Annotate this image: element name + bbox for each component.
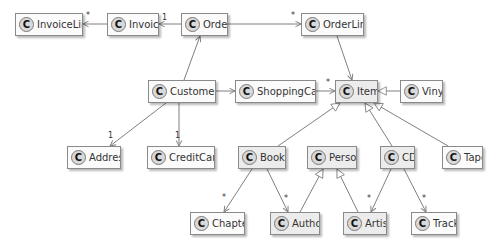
generalization-edge-author-person	[300, 169, 323, 212]
class-artist[interactable]: CArtist	[343, 212, 387, 235]
class-track[interactable]: CTrack	[411, 212, 457, 235]
generalization-edge-artist-person	[337, 169, 358, 212]
class-stereotype-icon: C	[111, 17, 126, 32]
association-edge-customer-address	[110, 103, 166, 146]
class-order[interactable]: COrder	[181, 13, 228, 36]
multiplicity-label: 1	[162, 13, 167, 22]
class-name: Book	[260, 153, 285, 163]
class-stereotype-icon: C	[152, 84, 167, 99]
association-edge-orderline-item	[337, 36, 352, 80]
class-orderline[interactable]: COrderLine	[301, 13, 364, 36]
class-book[interactable]: CBook	[238, 146, 286, 169]
class-name: CreditCard	[169, 153, 215, 163]
association-edge-cd-track	[404, 169, 426, 212]
class-name: Customer	[170, 87, 216, 97]
multiplicity-label: *	[367, 194, 371, 203]
class-name: Item	[357, 87, 378, 97]
class-stereotype-icon: C	[151, 150, 166, 165]
class-address[interactable]: CAddress	[67, 146, 121, 169]
class-name: Person	[329, 153, 357, 163]
class-name: Chapter	[212, 219, 245, 229]
class-stereotype-icon: C	[339, 84, 354, 99]
association-edge-cd-artist	[371, 169, 391, 212]
class-name: Invoice	[129, 20, 159, 30]
class-chapter[interactable]: CChapter	[190, 212, 245, 235]
class-cd[interactable]: CCD	[380, 146, 415, 169]
class-invoice[interactable]: CInvoice	[107, 13, 159, 36]
class-shoppingcart[interactable]: CShoppingCart	[235, 80, 316, 103]
class-stereotype-icon: C	[242, 150, 257, 165]
multiplicity-label: *	[86, 11, 90, 20]
generalization-edge-cd-item	[365, 103, 392, 146]
class-stereotype-icon: C	[415, 216, 430, 231]
association-edge-book-author	[267, 169, 288, 212]
class-stereotype-icon: C	[239, 84, 254, 99]
class-name: Artist	[365, 219, 387, 229]
class-name: OrderLine	[323, 20, 364, 30]
multiplicity-label: *	[422, 194, 426, 203]
generalization-edge-book-item	[278, 103, 340, 146]
class-tape[interactable]: CTape	[442, 146, 483, 169]
class-invoiceline[interactable]: CInvoiceLine	[15, 13, 83, 36]
class-stereotype-icon: C	[71, 150, 86, 165]
class-name: InvoiceLine	[37, 20, 83, 30]
class-stereotype-icon: C	[347, 216, 362, 231]
class-name: CD	[402, 153, 415, 163]
association-edge-customer-order	[184, 36, 200, 80]
class-name: Track	[433, 219, 457, 229]
class-stereotype-icon: C	[446, 150, 461, 165]
class-stereotype-icon: C	[404, 84, 419, 99]
class-stereotype-icon: C	[311, 150, 326, 165]
class-stereotype-icon: C	[185, 17, 200, 32]
class-author[interactable]: CAuthor	[270, 212, 320, 235]
generalization-edge-tape-item	[374, 103, 448, 146]
multiplicity-label: 1	[175, 131, 180, 140]
class-stereotype-icon: C	[19, 17, 34, 32]
multiplicity-label: *	[222, 193, 226, 202]
multiplicity-label: *	[284, 194, 288, 203]
class-name: Author	[292, 219, 320, 229]
class-stereotype-icon: C	[274, 216, 289, 231]
class-vinyl[interactable]: CVinyl	[400, 80, 443, 103]
class-name: Order	[203, 20, 228, 30]
multiplicity-label: 1	[108, 131, 113, 140]
class-name: Address	[89, 153, 121, 163]
association-edge-book-chapter	[224, 169, 252, 212]
multiplicity-label: *	[291, 11, 295, 20]
class-stereotype-icon: C	[384, 150, 399, 165]
class-name: Vinyl	[422, 87, 443, 97]
class-stereotype-icon: C	[194, 216, 209, 231]
class-item[interactable]: CItem	[335, 80, 378, 103]
multiplicity-label: *	[326, 78, 330, 87]
class-creditcard[interactable]: CCreditCard	[147, 146, 215, 169]
class-stereotype-icon: C	[305, 17, 320, 32]
class-name: Tape	[464, 153, 483, 163]
class-name: ShoppingCart	[257, 87, 316, 97]
class-person[interactable]: CPerson	[307, 146, 357, 169]
class-customer[interactable]: CCustomer	[148, 80, 216, 103]
uml-class-diagram: *1**11**** CInvoiceLineCInvoiceCOrderCOr…	[0, 0, 504, 251]
